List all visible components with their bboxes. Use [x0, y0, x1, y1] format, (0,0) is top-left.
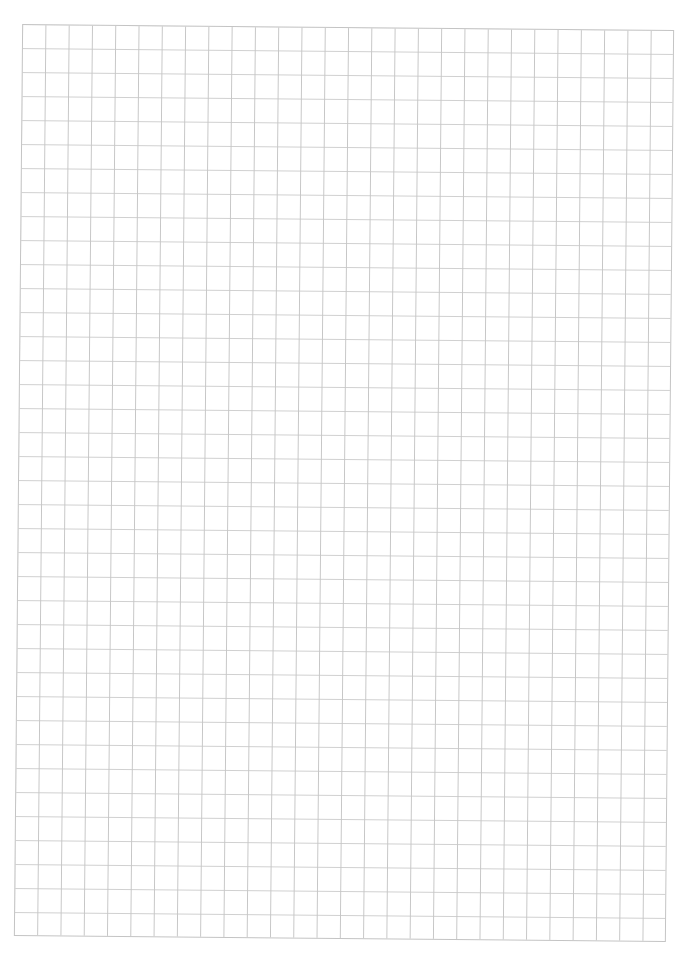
square-grid [14, 24, 674, 942]
graph-paper-sheet [0, 0, 693, 959]
